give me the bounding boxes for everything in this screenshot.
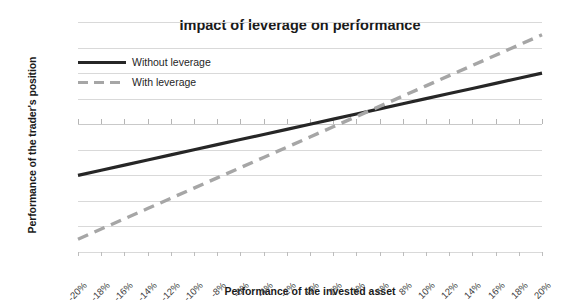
x-axis-tick-label: 16% xyxy=(485,280,506,301)
y-axis-title: Performance of the trader's position xyxy=(26,17,38,273)
chart-container: Impact of leverage on performance Perfor… xyxy=(0,0,561,306)
x-axis-tick-mark xyxy=(310,252,311,256)
x-axis-tick-mark xyxy=(449,252,450,256)
x-axis-tick-mark xyxy=(217,252,218,256)
x-axis-tick-mark xyxy=(194,252,195,256)
x-axis-tick-mark xyxy=(171,252,172,256)
x-axis-tick-mark xyxy=(519,252,520,256)
x-axis-tick-mark xyxy=(496,252,497,256)
x-axis-tick-mark xyxy=(287,252,288,256)
x-axis-tick-mark xyxy=(426,252,427,256)
x-axis-tick-mark xyxy=(101,252,102,256)
x-axis-tick-label: 20% xyxy=(532,280,553,301)
legend: Without leverage With leverage xyxy=(76,52,211,92)
x-axis-tick-label: 18% xyxy=(508,280,529,301)
legend-label: With leverage xyxy=(132,76,196,88)
legend-item-without-leverage: Without leverage xyxy=(76,52,211,72)
x-axis-tick-mark xyxy=(240,252,241,256)
x-axis-tick-mark xyxy=(264,252,265,256)
legend-label: Without leverage xyxy=(132,56,211,68)
x-axis-tick-label: 10% xyxy=(416,280,437,301)
x-axis-tick-mark xyxy=(333,252,334,256)
legend-item-with-leverage: With leverage xyxy=(76,72,211,92)
legend-swatch-dashed-line-icon xyxy=(76,76,128,88)
x-axis-tick-mark xyxy=(148,252,149,256)
x-axis-tick-label: 12% xyxy=(439,280,460,301)
x-axis-tick-mark xyxy=(356,252,357,256)
x-axis-tick-mark xyxy=(380,252,381,256)
x-axis-tick-mark xyxy=(78,252,79,256)
x-axis-tick-mark xyxy=(403,252,404,256)
legend-swatch-solid-line-icon xyxy=(76,56,128,68)
x-axis-tick-mark xyxy=(542,252,543,256)
x-axis-tick-mark xyxy=(542,119,543,124)
x-axis-tick-mark xyxy=(124,252,125,256)
x-axis-tick-mark xyxy=(472,252,473,256)
